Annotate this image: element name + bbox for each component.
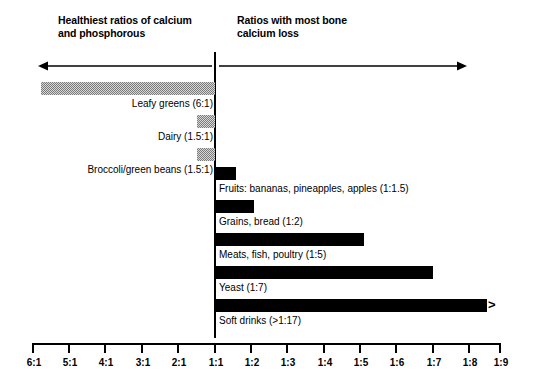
tick-mark bbox=[104, 343, 106, 353]
tick-label: 1:7 bbox=[414, 357, 454, 369]
bar-grains-bread bbox=[216, 200, 254, 213]
tick-mark bbox=[32, 343, 34, 353]
tick-label: 5:1 bbox=[50, 357, 90, 369]
ratio-scale-axis: 6:1 5:1 4:1 3:1 2:1 1:1 1:2 1:3 1:4 1:5 … bbox=[0, 336, 541, 380]
tick-mark bbox=[359, 343, 361, 353]
bar-label-fruits: Fruits: bananas, pineapples, apples (1:1… bbox=[219, 183, 519, 195]
bar-fruits bbox=[216, 167, 236, 180]
tick-mark bbox=[395, 343, 397, 353]
tick-mark bbox=[250, 343, 252, 353]
bar-label-grains-bread: Grains, bread (1:2) bbox=[219, 216, 519, 228]
bar-fill bbox=[197, 115, 215, 128]
bar-label-meats-fish-poultry: Meats, fish, poultry (1:5) bbox=[219, 249, 519, 261]
bar-broccoli-green-beans bbox=[197, 148, 215, 161]
bar-row-dairy: Dairy (1.5:1) bbox=[0, 115, 541, 148]
tick-mark bbox=[468, 343, 470, 353]
bar-fill bbox=[216, 233, 364, 246]
bar-label-dairy: Dairy (1.5:1) bbox=[25, 131, 213, 143]
tick-mark bbox=[432, 343, 434, 353]
bar-row-meats-fish-poultry: Meats, fish, poultry (1:5) bbox=[0, 233, 541, 266]
tick-label: 1:5 bbox=[341, 357, 381, 369]
tick-label: 1:6 bbox=[377, 357, 417, 369]
bar-meats-fish-poultry bbox=[216, 233, 364, 246]
bar-fill bbox=[216, 299, 487, 312]
bar-row-soft-drinks: Soft drinks (>1:17) bbox=[0, 299, 541, 332]
overflow-greater-than-icon: > bbox=[488, 298, 496, 311]
bar-row-fruits: Fruits: bananas, pineapples, apples (1:1… bbox=[0, 167, 541, 200]
tick-label: 1:2 bbox=[232, 357, 272, 369]
bar-row-grains-bread: Grains, bread (1:2) bbox=[0, 200, 541, 233]
tick-mark bbox=[141, 343, 143, 353]
bar-rows: Leafy greens (6:1) Dairy (1.5:1) Broccol… bbox=[0, 0, 541, 340]
bar-fill bbox=[197, 148, 215, 161]
tick-label: 1:9 bbox=[481, 357, 521, 369]
bar-label-soft-drinks: Soft drinks (>1:17) bbox=[219, 315, 519, 327]
tick-label: 2:1 bbox=[159, 357, 199, 369]
bar-fill bbox=[41, 82, 215, 95]
bar-leafy-greens bbox=[41, 82, 215, 95]
bar-row-leafy-greens: Leafy greens (6:1) bbox=[0, 82, 541, 115]
bar-fill bbox=[216, 200, 254, 213]
scale-axis-line bbox=[32, 343, 501, 345]
bar-soft-drinks bbox=[216, 299, 487, 312]
tick-mark bbox=[499, 343, 501, 353]
tick-mark bbox=[68, 343, 70, 353]
tick-label: 1:1 bbox=[196, 357, 236, 369]
tick-label: 1:4 bbox=[305, 357, 345, 369]
bar-label-leafy-greens: Leafy greens (6:1) bbox=[25, 98, 213, 110]
tick-label: 1:3 bbox=[268, 357, 308, 369]
tick-label: 6:1 bbox=[14, 357, 54, 369]
tick-mark bbox=[177, 343, 179, 353]
tick-mark bbox=[214, 343, 216, 353]
tick-label: 3:1 bbox=[123, 357, 163, 369]
bar-yeast bbox=[216, 266, 433, 279]
tick-label: 4:1 bbox=[86, 357, 126, 369]
bar-fill bbox=[216, 167, 236, 180]
tick-mark bbox=[323, 343, 325, 353]
bar-label-yeast: Yeast (1:7) bbox=[219, 282, 519, 294]
tick-mark bbox=[286, 343, 288, 353]
bar-row-yeast: Yeast (1:7) bbox=[0, 266, 541, 299]
bar-dairy bbox=[197, 115, 215, 128]
bar-fill bbox=[216, 266, 433, 279]
calcium-phosphorous-ratio-chart: Healthiest ratios of calcium and phospho… bbox=[0, 0, 541, 381]
